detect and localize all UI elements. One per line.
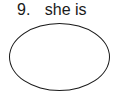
question-text: she is [45,1,87,19]
question-prompt: 9. she is [17,1,87,19]
question-number: 9. [17,1,30,19]
answer-oval[interactable] [9,23,110,91]
